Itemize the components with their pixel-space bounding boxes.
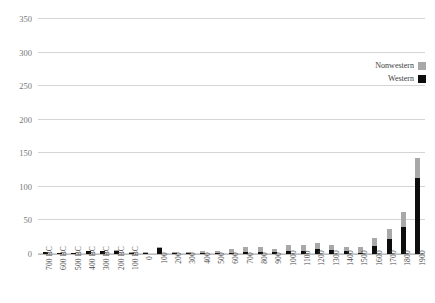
legend-item-nonwestern: Nonwestern [326,59,426,72]
bar-slot [382,19,396,254]
x-axis-tick-label: 300 BC [95,256,109,302]
chart-container: 050100150200250300350 700 BC600 BC500 BC… [0,0,435,303]
x-axis-tick-label: 1900 [411,256,425,302]
bar-slot [124,19,138,254]
bar-segment-nonwestern [401,212,406,227]
bar-slot [138,19,152,254]
x-axis-tick-label: 700 BC [38,256,52,302]
bar-slot [239,19,253,254]
bar-slot [38,19,52,254]
y-axis-tick-label: 150 [0,149,32,158]
legend-swatch-nonwestern-icon [418,62,426,70]
y-axis-tick-label: 250 [0,82,32,91]
bar-slot [181,19,195,254]
x-axis-tick-label: 400 BC [81,256,95,302]
x-axis-labels: 700 BC600 BC500 BC400 BC300 BC200 BC100 … [38,256,425,303]
x-axis-tick-label: 1300 [325,256,339,302]
x-axis-tick-label: 500 BC [67,256,81,302]
bar-slot [310,19,324,254]
bar-slot [167,19,181,254]
y-axis-tick-label: 50 [0,216,32,225]
x-axis-tick-label: 700 [239,256,253,302]
x-axis-tick-label: 900 [267,256,281,302]
bar-slot [224,19,238,254]
x-axis-tick-label: 200 BC [110,256,124,302]
bar-segment-western [415,178,420,254]
y-axis-tick-label: 350 [0,15,32,24]
legend-label-nonwestern: Nonwestern [375,61,414,70]
x-axis-tick-label: 1100 [296,256,310,302]
y-axis-tick-label: 0 [0,250,32,259]
bar-stack [401,212,406,254]
bar-slot [267,19,281,254]
legend-label-western: Western [388,74,414,83]
x-axis-tick-label: 500 [210,256,224,302]
x-axis-tick-label: 1200 [310,256,324,302]
x-axis-tick-label: 1600 [368,256,382,302]
bar-segment-nonwestern [315,243,320,250]
bars-layer [38,19,425,254]
bar-segment-nonwestern [372,238,377,246]
x-axis-tick-label: 200 [167,256,181,302]
x-axis-tick-label: 300 [181,256,195,302]
legend-swatch-western-icon [418,75,426,83]
x-axis-tick-label: 400 [196,256,210,302]
x-axis-tick-label: 1500 [353,256,367,302]
bar-slot [353,19,367,254]
bar-segment-nonwestern [415,158,420,178]
bar-stack [415,158,420,254]
x-axis-tick-label: 1000 [282,256,296,302]
x-axis-tick-label: 100 [153,256,167,302]
bar-slot [411,19,425,254]
x-axis-tick-label: 600 [224,256,238,302]
bar-slot [368,19,382,254]
bar-slot [325,19,339,254]
bar-slot [81,19,95,254]
chart-legend: Nonwestern Western [322,57,430,93]
x-axis-tick-label: 600 BC [52,256,66,302]
bar-slot [282,19,296,254]
bar-slot [253,19,267,254]
x-axis-tick-label: 1700 [382,256,396,302]
x-axis-tick-label: 800 [253,256,267,302]
y-axis-tick-label: 200 [0,116,32,125]
bar-slot [296,19,310,254]
bar-slot [95,19,109,254]
bar-slot [396,19,410,254]
y-axis-tick-label: 300 [0,49,32,58]
x-axis-tick-label: 0 [138,256,152,302]
y-axis-tick-label: 100 [0,183,32,192]
bar-slot [196,19,210,254]
bar-slot [210,19,224,254]
bar-slot [110,19,124,254]
bar-slot [339,19,353,254]
x-axis-tick-label: 1800 [396,256,410,302]
bar-slot [67,19,81,254]
x-axis-tick-label: 1400 [339,256,353,302]
legend-item-western: Western [326,72,426,85]
bar-segment-nonwestern [387,229,392,240]
bar-slot [153,19,167,254]
x-axis-tick-label: 100 BC [124,256,138,302]
bar-slot [52,19,66,254]
